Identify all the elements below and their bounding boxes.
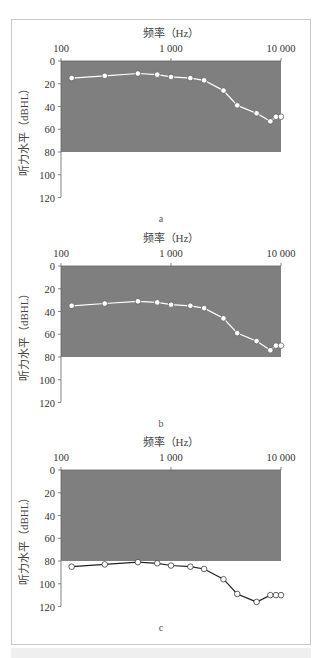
x-tick-label: 100: [53, 452, 69, 463]
y-tick-label: 0: [50, 56, 55, 67]
y-tick-label: 60: [45, 329, 56, 340]
data-point-marker: [154, 560, 160, 566]
y-axis-title: 听力水平（dBHL）: [18, 492, 30, 586]
panel-label: b: [159, 418, 164, 429]
y-tick-label: 40: [45, 307, 56, 318]
data-point-marker: [221, 88, 227, 94]
audiogram-figure: 频率（Hz）1001 00010 000020406080100120听力水平（…: [0, 0, 321, 658]
y-tick-label: 0: [50, 465, 55, 476]
figure-caption-strip: [11, 648, 311, 658]
y-tick-label: 20: [45, 284, 56, 295]
data-point-marker: [69, 303, 75, 309]
data-point-marker: [69, 75, 75, 81]
data-point-marker: [154, 72, 160, 78]
hearing-threshold-line: [72, 562, 281, 602]
y-axis-title: 听力水平（dBHL）: [18, 288, 30, 382]
y-tick-label: 100: [39, 170, 55, 181]
panel-label: a: [159, 213, 164, 224]
y-axis-title: 听力水平（dBHL）: [18, 83, 30, 177]
data-point-marker: [278, 592, 284, 598]
y-tick-label: 80: [45, 147, 56, 158]
data-point-marker: [154, 300, 160, 306]
data-point-marker: [188, 564, 194, 570]
data-point-marker: [278, 343, 284, 349]
normal-range-shading: [61, 266, 281, 357]
y-tick-label: 120: [39, 398, 55, 409]
data-point-marker: [234, 330, 240, 336]
data-point-marker: [168, 74, 174, 80]
data-point-marker: [201, 305, 207, 311]
data-point-marker: [254, 111, 260, 117]
y-tick-label: 20: [45, 79, 56, 90]
chart-panel-a: 频率（Hz）1001 00010 000020406080100120听力水平（…: [18, 26, 295, 224]
data-point-marker: [102, 301, 108, 307]
x-tick-label: 10 000: [267, 248, 296, 259]
data-point-marker: [201, 566, 207, 572]
data-point-marker: [268, 118, 274, 124]
x-tick-label: 1 000: [159, 248, 183, 259]
data-point-marker: [201, 78, 207, 84]
x-tick-label: 1 000: [159, 43, 183, 54]
y-tick-label: 120: [39, 602, 55, 613]
y-tick-label: 0: [50, 261, 55, 272]
data-point-marker: [135, 559, 141, 565]
x-axis-title: 频率（Hz）: [143, 26, 200, 39]
data-point-marker: [102, 73, 108, 79]
x-tick-label: 10 000: [267, 43, 296, 54]
y-tick-label: 60: [45, 533, 56, 544]
data-point-marker: [102, 562, 108, 568]
chart-panel-c: 频率（Hz）1001 00010 000020406080100120听力水平（…: [18, 435, 295, 633]
data-point-marker: [268, 592, 274, 598]
data-point-marker: [188, 75, 194, 81]
chart-panel-b: 频率（Hz）1001 00010 000020406080100120听力水平（…: [18, 231, 295, 429]
y-tick-label: 80: [45, 352, 56, 363]
data-point-marker: [69, 564, 75, 570]
x-axis-title: 频率（Hz）: [143, 435, 200, 448]
y-tick-label: 20: [45, 488, 56, 499]
x-tick-label: 100: [53, 43, 69, 54]
data-point-marker: [234, 103, 240, 109]
x-tick-label: 10 000: [267, 452, 296, 463]
x-tick-label: 1 000: [159, 452, 183, 463]
data-point-marker: [135, 71, 141, 77]
panel-label: c: [159, 622, 164, 633]
data-point-marker: [254, 338, 260, 344]
data-point-marker: [278, 114, 284, 120]
y-tick-label: 100: [39, 375, 55, 386]
data-point-marker: [221, 316, 227, 322]
data-point-marker: [168, 563, 174, 569]
y-tick-label: 120: [39, 193, 55, 204]
data-point-marker: [221, 576, 227, 582]
data-point-marker: [254, 599, 260, 605]
data-point-marker: [234, 591, 240, 597]
y-tick-label: 40: [45, 511, 56, 522]
y-tick-label: 60: [45, 124, 56, 135]
y-tick-label: 100: [39, 579, 55, 590]
data-point-marker: [168, 302, 174, 308]
data-point-marker: [188, 303, 194, 309]
normal-range-shading: [61, 470, 281, 561]
x-axis-title: 频率（Hz）: [143, 231, 200, 244]
data-point-marker: [268, 347, 274, 353]
y-tick-label: 80: [45, 556, 56, 567]
y-tick-label: 40: [45, 102, 56, 113]
data-point-marker: [135, 298, 141, 304]
x-tick-label: 100: [53, 248, 69, 259]
